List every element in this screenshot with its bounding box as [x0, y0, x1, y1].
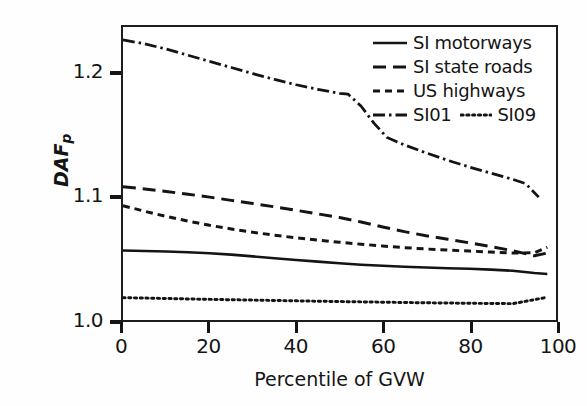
y-axis-label: DAFp [50, 115, 75, 205]
legend-line-sample-icon [372, 83, 408, 97]
legend-item-label: US highways [413, 80, 525, 101]
legend-item[interactable]: SI01 [372, 104, 451, 125]
x-tick-label: 80 [441, 334, 501, 358]
x-tick-mark [470, 322, 473, 333]
y-axis-label-main: DAF [50, 144, 72, 187]
legend-row: US highways [372, 78, 552, 102]
legend-item[interactable]: SI09 [451, 104, 535, 125]
legend-line-sample-icon [460, 107, 492, 121]
legend-row: SI state roads [372, 54, 552, 78]
legend-row: SI01SI09 [372, 102, 552, 126]
x-axis-title: Percentile of GVW [121, 368, 558, 390]
legend-item-label: SI motorways [413, 32, 532, 53]
y-tick-label: 1.1 [73, 183, 103, 207]
x-tick-label: 60 [353, 334, 413, 358]
x-tick-label: 40 [266, 334, 326, 358]
series-line-si09 [123, 297, 547, 303]
legend-line-sample-icon [372, 35, 408, 49]
x-tick-mark [557, 322, 560, 333]
legend-item-label: SI01 [413, 104, 451, 125]
legend-item[interactable]: US highways [372, 80, 525, 101]
y-tick-mark [110, 195, 121, 199]
legend-item[interactable]: SI state roads [372, 56, 532, 77]
legend-line-sample-icon [372, 107, 408, 121]
legend-item-label: SI09 [497, 104, 535, 125]
x-tick-mark [295, 322, 298, 333]
series-line-si-motorways [123, 251, 547, 274]
y-axis-label-subscript: p [58, 134, 74, 144]
x-tick-label: 20 [178, 334, 238, 358]
x-tick-mark [207, 322, 210, 333]
y-tick-mark [110, 71, 121, 75]
legend-item[interactable]: SI motorways [372, 32, 532, 53]
legend-line-sample-icon [372, 59, 408, 73]
y-tick-label: 1.0 [73, 308, 103, 332]
legend-row: SI motorways [372, 30, 552, 54]
chart-legend: SI motorwaysSI state roadsUS highwaysSI0… [372, 30, 552, 126]
x-tick-label: 0 [91, 334, 151, 358]
legend-item-label: SI state roads [413, 56, 532, 77]
x-tick-label: 100 [528, 334, 587, 358]
x-tick-mark [120, 322, 123, 333]
chart-figure: DAFp 1.01.11.2 020406080100 SI motorways… [0, 0, 587, 406]
y-tick-label: 1.2 [73, 59, 103, 83]
x-tick-mark [382, 322, 385, 333]
